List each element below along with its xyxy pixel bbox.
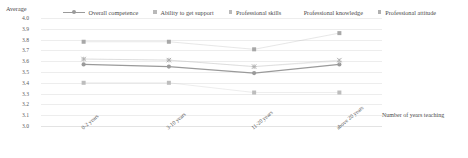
legend-item-professional-attitude[interactable]: Professional attitude <box>378 9 436 16</box>
x-tick-label: 11-20 years <box>250 109 274 130</box>
y-tick-label: 3.7 <box>22 47 38 53</box>
square-marker-icon <box>229 10 232 13</box>
legend-label: Professional knowledge <box>304 9 363 16</box>
plot-area: 4.03.93.83.73.63.53.43.33.23.13.0 0-2 ye… <box>22 18 382 126</box>
line-marker-icon <box>63 12 85 13</box>
y-tick-label: 3.9 <box>22 26 38 32</box>
legend-item-ability-to-get-support[interactable]: Ability to get support <box>153 9 214 16</box>
y-tick-label: 3.4 <box>22 80 38 86</box>
y-tick-label: 3.0 <box>22 123 38 129</box>
legend-item-professional-knowledge[interactable]: Professional knowledge <box>296 9 363 16</box>
y-tick-label: 3.1 <box>22 112 38 118</box>
x-axis-labels: 0-2 years3-10 years11-20 yearsabove 20 y… <box>41 18 382 126</box>
y-tick-label: 3.5 <box>22 69 38 75</box>
legend-label: Professional skills <box>236 9 281 16</box>
square-marker-icon <box>153 10 156 13</box>
legend-item-professional-skills[interactable]: Professional skills <box>229 9 282 16</box>
x-tick-label: 3-10 years <box>165 111 187 131</box>
y-tick-label: 3.3 <box>22 91 38 97</box>
chart-legend: Average Overall competence Ability to ge… <box>0 5 468 19</box>
y-tick-label: 3.8 <box>22 37 38 43</box>
y-tick-label: 3.6 <box>22 58 38 64</box>
x-marker-icon <box>378 10 381 13</box>
x-axis-title: Number of years teaching <box>382 112 444 118</box>
y-tick-label: 4.0 <box>22 15 38 21</box>
legend-label: Professional attitude <box>385 9 436 16</box>
gridline <box>41 126 382 127</box>
cross-marker-icon <box>296 10 299 13</box>
legend-item-overall-competence[interactable]: Overall competence <box>63 9 139 16</box>
y-tick-label: 3.2 <box>22 101 38 107</box>
chart-root: Average Average Overall competence Abili… <box>0 0 468 158</box>
legend-label: Ability to get support <box>161 9 214 16</box>
legend-label: Overall competence <box>89 9 139 16</box>
x-tick-label: 0-2 years <box>80 113 100 131</box>
